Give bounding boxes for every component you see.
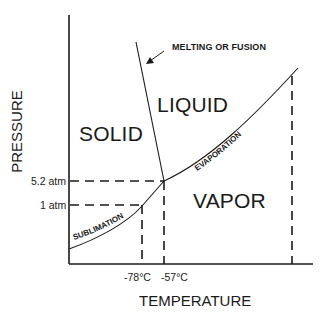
region-solid-label: SOLID bbox=[79, 123, 143, 144]
region-vapor-label: VAPOR bbox=[193, 190, 266, 211]
evaporation-curve bbox=[164, 68, 298, 181]
melting-fusion-label: MELTING OR FUSION bbox=[172, 43, 266, 52]
pressure-tick-5-2-atm: 5.2 atm bbox=[31, 176, 66, 187]
x-axis-title: TEMPERATURE bbox=[139, 293, 251, 308]
melting-arrow-line bbox=[150, 51, 164, 61]
y-axis-title: PRESSURE bbox=[9, 87, 24, 177]
region-liquid-label: LIQUID bbox=[157, 94, 228, 115]
melting-arrow-head bbox=[146, 57, 154, 64]
temperature-tick-minus-57c: -57°C bbox=[161, 272, 188, 283]
temperature-tick-minus-78c: -78°C bbox=[124, 272, 151, 283]
evaporation-label: EVAPORATION bbox=[193, 130, 243, 173]
pressure-tick-1-atm: 1 atm bbox=[40, 200, 66, 211]
